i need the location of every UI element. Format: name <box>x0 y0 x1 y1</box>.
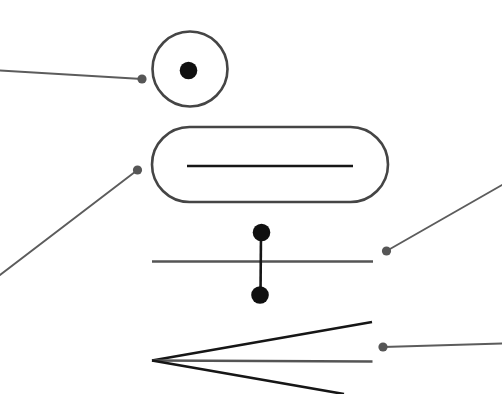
leader-endpoint-dot <box>378 342 387 351</box>
fan-middle-line <box>152 361 373 362</box>
converging-lines-symbol <box>152 322 502 394</box>
leader-endpoint-dot <box>382 246 391 255</box>
leader-line-circle-dot <box>0 71 142 80</box>
capsule-outline <box>152 127 388 202</box>
leader-line-crossbar <box>387 185 502 251</box>
dumbbell-top-dot <box>253 224 271 242</box>
circle-dot-symbol <box>0 32 228 107</box>
leader-line-capsule <box>0 170 138 275</box>
leader-endpoint-dot <box>137 74 146 83</box>
fan-bottom-line <box>152 361 344 394</box>
fan-top-line <box>152 322 372 361</box>
diagram-figure <box>0 0 502 394</box>
center-dot <box>180 62 198 80</box>
leader-endpoint-dot <box>133 165 142 174</box>
leader-line-converging <box>383 344 502 348</box>
capsule-symbol <box>0 127 388 275</box>
dumbbell-bottom-dot <box>251 286 269 304</box>
symbols-diagram-svg <box>0 0 502 394</box>
dumbbell-vertical-line <box>261 233 262 296</box>
